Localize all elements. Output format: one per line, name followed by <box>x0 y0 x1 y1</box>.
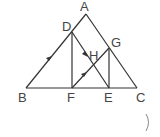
parallel-arrow-fg <box>81 72 87 77</box>
paren-mark <box>146 114 149 131</box>
label-d: D <box>62 20 71 33</box>
segment-ab <box>26 14 86 88</box>
label-a: A <box>80 0 89 13</box>
label-h: H <box>89 49 98 62</box>
label-b: B <box>18 91 27 104</box>
label-e: E <box>104 91 113 104</box>
label-c: C <box>136 91 145 104</box>
parallel-arrow-ab <box>46 56 52 61</box>
label-g: G <box>111 36 121 49</box>
label-f: F <box>67 91 75 104</box>
triangle-diagram <box>0 0 160 137</box>
